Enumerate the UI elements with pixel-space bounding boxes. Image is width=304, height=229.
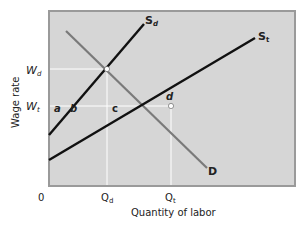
area-label-c: c [112,103,118,114]
x-tick-qd: Qd [101,192,113,205]
labor-market-chart: Sd St D a b c d Wd Wt Wage rate 0 Qd Qt … [0,0,304,229]
equilibrium-point-d [104,66,109,71]
y-axis-label: Wage rate [10,77,21,128]
equilibrium-point-t [168,103,173,108]
area-label-b: b [70,103,77,114]
x-tick-qt: Qt [165,192,176,205]
x-tick-0: 0 [38,192,44,203]
area-label-d: d [166,91,174,102]
label-d: D [208,165,217,178]
area-label-a: a [54,103,61,114]
x-axis-label: Quantity of labor [131,207,217,218]
y-tick-wd: Wd [26,64,42,78]
y-tick-wt: Wt [26,100,40,114]
